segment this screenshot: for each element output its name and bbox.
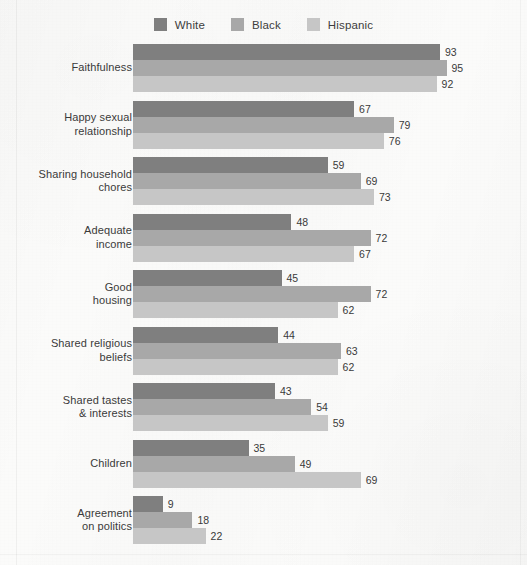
bar-value-label: 54 <box>316 399 328 415</box>
bar-row: 62 <box>133 359 527 375</box>
bar-row: 59 <box>133 415 527 431</box>
legend-label: Hispanic <box>328 19 373 31</box>
bar-row: 95 <box>133 60 527 76</box>
bar-value-label: 43 <box>280 383 292 399</box>
bar-white[interactable] <box>133 157 328 173</box>
category-label-line: Faithfulness <box>0 61 132 75</box>
bar-row: 9 <box>133 496 527 512</box>
chart-legend: WhiteBlackHispanic <box>0 18 527 31</box>
category-label: Children <box>0 457 132 471</box>
bar-white[interactable] <box>133 44 440 60</box>
bar-white[interactable] <box>133 440 249 456</box>
bar-white[interactable] <box>133 496 163 512</box>
category-label-line: Good <box>0 281 132 295</box>
bar-black[interactable] <box>133 512 192 528</box>
bar-stack: 939592 <box>133 44 527 92</box>
category-label-line: Sharing household <box>0 168 132 182</box>
bar-black[interactable] <box>133 173 361 189</box>
legend-item-black[interactable]: Black <box>231 18 281 31</box>
bar-hispanic[interactable] <box>133 246 354 262</box>
category-label-line: & interests <box>0 407 132 421</box>
category-label-line: Agreement <box>0 507 132 521</box>
bar-black[interactable] <box>133 343 341 359</box>
bar-stack: 446362 <box>133 327 527 375</box>
bar-row: 62 <box>133 302 527 318</box>
bar-hispanic[interactable] <box>133 302 338 318</box>
bar-row: 72 <box>133 230 527 246</box>
bar-value-label: 95 <box>452 60 464 76</box>
category-label-line: Happy sexual <box>0 111 132 125</box>
bar-hispanic[interactable] <box>133 76 437 92</box>
bar-group: Shared religiousbeliefs446362 <box>0 327 527 375</box>
bar-value-label: 67 <box>359 246 371 262</box>
category-label-line: Shared religious <box>0 337 132 351</box>
bar-hispanic[interactable] <box>133 472 361 488</box>
bar-white[interactable] <box>133 270 282 286</box>
bar-value-label: 59 <box>333 415 345 431</box>
bar-hispanic[interactable] <box>133 528 206 544</box>
category-label: Goodhousing <box>0 281 132 308</box>
bar-row: 43 <box>133 383 527 399</box>
bar-row: 69 <box>133 472 527 488</box>
bar-stack: 677976 <box>133 101 527 149</box>
chart-plot-area: Faithfulness939592Happy sexualrelationsh… <box>0 44 527 554</box>
bar-white[interactable] <box>133 101 354 117</box>
category-label: Happy sexualrelationship <box>0 111 132 138</box>
bar-row: 45 <box>133 270 527 286</box>
bar-row: 72 <box>133 286 527 302</box>
bar-group: Shared tastes& interests435459 <box>0 383 527 431</box>
bar-stack: 91822 <box>133 496 527 544</box>
bar-row: 67 <box>133 101 527 117</box>
bar-value-label: 59 <box>333 157 345 173</box>
bar-hispanic[interactable] <box>133 133 384 149</box>
bar-hispanic[interactable] <box>133 189 374 205</box>
bar-row: 22 <box>133 528 527 544</box>
category-label-line: chores <box>0 181 132 195</box>
bar-value-label: 22 <box>211 528 223 544</box>
legend-item-white[interactable]: White <box>154 18 205 31</box>
category-label: Adequateincome <box>0 224 132 251</box>
bar-value-label: 79 <box>399 117 411 133</box>
bar-row: 59 <box>133 157 527 173</box>
category-label: Faithfulness <box>0 61 132 75</box>
category-label: Shared tastes& interests <box>0 394 132 421</box>
bar-row: 54 <box>133 399 527 415</box>
bar-black[interactable] <box>133 456 295 472</box>
bar-stack: 596973 <box>133 157 527 205</box>
bar-black[interactable] <box>133 286 371 302</box>
bar-value-label: 62 <box>343 359 355 375</box>
bar-group: Sharing householdchores596973 <box>0 157 527 205</box>
bar-value-label: 72 <box>376 230 388 246</box>
bar-hispanic[interactable] <box>133 359 338 375</box>
bar-value-label: 49 <box>300 456 312 472</box>
legend-item-hispanic[interactable]: Hispanic <box>307 18 373 31</box>
bar-group: Agreementon politics91822 <box>0 496 527 544</box>
bar-value-label: 73 <box>379 189 391 205</box>
legend-label: White <box>175 19 205 31</box>
bar-group: Adequateincome487267 <box>0 214 527 262</box>
bar-value-label: 69 <box>366 472 378 488</box>
bar-row: 63 <box>133 343 527 359</box>
category-label-line: Children <box>0 457 132 471</box>
bar-group: Goodhousing457262 <box>0 270 527 318</box>
bar-row: 69 <box>133 173 527 189</box>
bar-value-label: 44 <box>283 327 295 343</box>
category-label-line: Adequate <box>0 224 132 238</box>
bar-value-label: 72 <box>376 286 388 302</box>
bar-white[interactable] <box>133 214 291 230</box>
category-label-line: Shared tastes <box>0 394 132 408</box>
bar-white[interactable] <box>133 327 278 343</box>
bar-hispanic[interactable] <box>133 415 328 431</box>
bar-value-label: 93 <box>445 44 457 60</box>
bar-black[interactable] <box>133 60 447 76</box>
bar-value-label: 67 <box>359 101 371 117</box>
category-label-line: income <box>0 238 132 252</box>
bar-black[interactable] <box>133 399 311 415</box>
category-label: Shared religiousbeliefs <box>0 337 132 364</box>
legend-swatch-icon <box>154 18 167 31</box>
bar-value-label: 45 <box>287 270 299 286</box>
bar-white[interactable] <box>133 383 275 399</box>
bar-value-label: 62 <box>343 302 355 318</box>
bar-black[interactable] <box>133 230 371 246</box>
bar-black[interactable] <box>133 117 394 133</box>
